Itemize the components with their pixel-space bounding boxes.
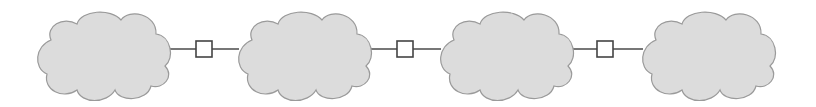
cloud-network-icon-2	[239, 12, 372, 100]
cloud-network-icon-4	[643, 12, 776, 100]
square-node-icon-3	[597, 41, 613, 57]
network-chain-diagram	[0, 0, 816, 107]
cloud-network-icon-3	[441, 12, 574, 100]
square-node-icon-2	[397, 41, 413, 57]
cloud-network-icon-1	[38, 12, 171, 100]
square-node-icon-1	[196, 41, 212, 57]
